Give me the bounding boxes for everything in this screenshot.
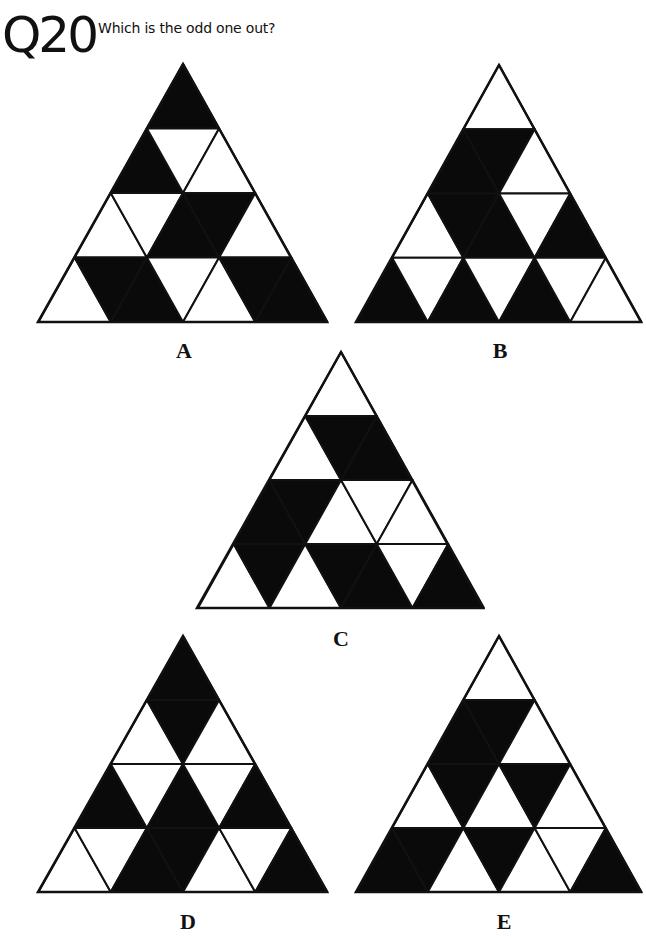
option-figure-a[interactable] <box>38 64 328 322</box>
up-triangle-cell <box>147 636 219 700</box>
up-triangle-cell <box>147 64 219 129</box>
option-label-b[interactable]: B <box>493 340 508 362</box>
answer-figures <box>0 0 646 938</box>
option-figure-b[interactable] <box>356 65 642 322</box>
option-figure-e[interactable] <box>356 636 642 892</box>
option-figure-c[interactable] <box>197 352 484 608</box>
option-label-a[interactable]: A <box>176 340 192 362</box>
option-label-e[interactable]: E <box>497 911 512 933</box>
option-figure-d[interactable] <box>38 636 328 892</box>
option-label-d[interactable]: D <box>180 911 196 933</box>
option-label-c[interactable]: C <box>333 628 349 650</box>
up-triangle-cell <box>305 352 377 416</box>
up-triangle-cell <box>463 65 534 129</box>
up-triangle-cell <box>463 636 534 700</box>
